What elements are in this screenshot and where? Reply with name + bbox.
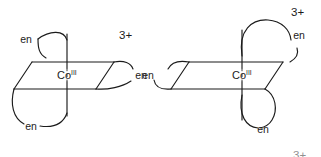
left-en-right-chelate <box>96 61 133 89</box>
right-equatorial-plane <box>171 62 283 89</box>
right-metal-oxidation-state: III <box>246 69 252 76</box>
right-en-bottom-label: en <box>257 123 269 135</box>
right-en-left-lower-arc <box>154 80 171 89</box>
left-en-right-lower-arc <box>96 81 131 89</box>
right-plane-left-edge <box>171 62 189 89</box>
left-plane-left-edge <box>14 62 32 89</box>
right-en-top-label: en <box>293 29 305 41</box>
right-en-top-leg <box>290 48 298 62</box>
left-metal-symbol: Co <box>57 69 71 81</box>
chemical-structure-figure: en en en CoIII 3+ <box>0 0 321 157</box>
left-plane-right-edge <box>96 62 114 89</box>
right-en-top-arc <box>241 20 291 56</box>
right-en-left-label: en <box>142 69 154 81</box>
left-charge-label: 3+ <box>119 29 132 41</box>
right-plane-right-edge <box>265 62 283 89</box>
left-metal-label: CoIII <box>57 69 77 81</box>
clipped-charge-label: 3+ <box>293 149 306 157</box>
left-en-upper-leg <box>38 39 46 58</box>
left-en-lower-chelate <box>12 89 67 126</box>
right-metal-symbol: Co <box>232 69 246 81</box>
left-en-right-upper-arc <box>114 61 133 69</box>
left-en-upper-chelate <box>38 32 67 58</box>
structure-canvas: en en en CoIII 3+ <box>0 0 321 157</box>
right-en-top-chelate <box>241 20 297 62</box>
left-en-upper-label: en <box>20 33 32 45</box>
right-metal-label: CoIII <box>232 69 252 81</box>
left-metal-oxidation-state: III <box>71 69 77 76</box>
left-en-upper-arc <box>38 32 67 40</box>
right-en-left-chelate <box>154 61 189 89</box>
left-en-lower-leg <box>12 89 24 124</box>
left-en-lower-arc <box>40 113 67 126</box>
left-complex: en en en CoIII 3+ <box>12 29 147 132</box>
right-en-bottom-arc <box>241 95 258 128</box>
left-en-lower-label: en <box>25 120 37 132</box>
right-en-left-upper-arc <box>168 61 189 69</box>
right-complex: en en en CoIII 3+ <box>142 6 305 135</box>
right-charge-label: 3+ <box>291 6 304 18</box>
